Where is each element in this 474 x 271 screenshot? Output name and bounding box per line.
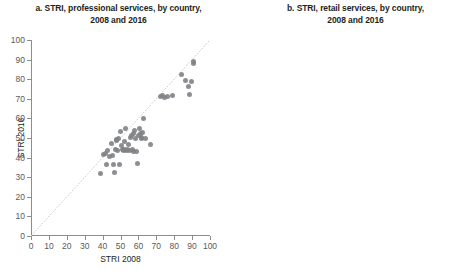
data-point xyxy=(179,72,184,77)
data-point xyxy=(165,94,170,99)
data-point xyxy=(186,84,191,89)
data-point xyxy=(104,162,109,167)
x-tick-a-100 xyxy=(210,236,211,240)
data-point xyxy=(183,78,188,83)
x-tick-label-a-90: 90 xyxy=(187,241,196,251)
y-tick-a-80 xyxy=(27,79,31,80)
y-tick-label-a-40: 40 xyxy=(16,153,25,163)
chart-panel-a: a. STRI, professional services, by count… xyxy=(0,0,237,271)
x-tick-label-a-60: 60 xyxy=(134,241,143,251)
panel-b-title: b. STRI, retail services, by country, 20… xyxy=(247,3,464,26)
data-point xyxy=(111,162,116,167)
data-point xyxy=(117,162,122,167)
y-tick-a-30 xyxy=(27,177,31,178)
y-tick-a-60 xyxy=(27,118,31,119)
x-tick-label-a-80: 80 xyxy=(169,241,178,251)
x-tick-label-a-10: 10 xyxy=(44,241,53,251)
y-tick-a-20 xyxy=(27,197,31,198)
x-tick-a-20 xyxy=(67,236,68,240)
data-point xyxy=(189,79,194,84)
data-point xyxy=(98,171,103,176)
x-tick-label-a-40: 40 xyxy=(98,241,107,251)
data-point xyxy=(170,93,175,98)
x-tick-a-50 xyxy=(121,236,122,240)
y-tick-label-a-50: 50 xyxy=(16,133,25,143)
x-tick-label-a-0: 0 xyxy=(29,241,34,251)
data-point xyxy=(110,153,115,158)
y-tick-label-a-70: 70 xyxy=(16,94,25,104)
data-point xyxy=(135,161,140,166)
x-axis-title-a: STRI 2008 xyxy=(100,254,141,264)
x-tick-label-a-70: 70 xyxy=(152,241,161,251)
panel-a-title-line1: a. STRI, professional services, by count… xyxy=(10,3,227,15)
x-tick-label-a-20: 20 xyxy=(62,241,71,251)
scatter-plot-a: STRI 2008 STRI 2016 01020304050607080901… xyxy=(31,40,210,236)
data-point xyxy=(134,149,139,154)
x-tick-label-a-30: 30 xyxy=(80,241,89,251)
data-point xyxy=(116,136,121,141)
y-tick-label-a-20: 20 xyxy=(16,192,25,202)
y-tick-a-70 xyxy=(27,99,31,100)
y-tick-label-a-0: 0 xyxy=(20,231,25,241)
y-axis-line-a xyxy=(31,40,32,236)
data-point xyxy=(148,142,153,147)
data-point xyxy=(141,116,146,121)
data-point xyxy=(109,141,114,146)
data-point xyxy=(140,130,145,135)
x-tick-label-a-100: 100 xyxy=(203,241,217,251)
x-tick-a-10 xyxy=(49,236,50,240)
x-tick-a-90 xyxy=(192,236,193,240)
data-point xyxy=(118,129,123,134)
x-tick-a-60 xyxy=(138,236,139,240)
y-tick-a-90 xyxy=(27,60,31,61)
y-tick-label-a-80: 80 xyxy=(16,74,25,84)
x-tick-label-a-50: 50 xyxy=(116,241,125,251)
y-tick-a-100 xyxy=(27,40,31,41)
y-tick-a-10 xyxy=(27,216,31,217)
x-tick-a-30 xyxy=(85,236,86,240)
x-tick-a-80 xyxy=(174,236,175,240)
data-point xyxy=(143,136,148,141)
x-tick-a-70 xyxy=(156,236,157,240)
panel-b-title-line2: 2008 and 2016 xyxy=(247,15,464,27)
data-point xyxy=(105,148,110,153)
figure-root: a. STRI, professional services, by count… xyxy=(0,0,474,271)
panel-b-title-line1: b. STRI, retail services, by country, xyxy=(247,3,464,15)
data-point xyxy=(123,126,128,131)
y-tick-a-40 xyxy=(27,158,31,159)
panel-a-title-line2: 2008 and 2016 xyxy=(10,15,227,27)
panel-a-title: a. STRI, professional services, by count… xyxy=(10,3,227,26)
y-tick-label-a-60: 60 xyxy=(16,113,25,123)
data-point xyxy=(187,92,192,97)
y-tick-label-a-10: 10 xyxy=(16,211,25,221)
data-point xyxy=(112,170,117,175)
x-tick-a-40 xyxy=(103,236,104,240)
data-point xyxy=(191,61,196,66)
y-tick-a-50 xyxy=(27,138,31,139)
y-tick-label-a-30: 30 xyxy=(16,172,25,182)
x-tick-a-0 xyxy=(31,236,32,240)
y-tick-label-a-100: 100 xyxy=(11,35,25,45)
y-tick-label-a-90: 90 xyxy=(16,55,25,65)
chart-panel-b: b. STRI, retail services, by country, 20… xyxy=(237,0,474,271)
